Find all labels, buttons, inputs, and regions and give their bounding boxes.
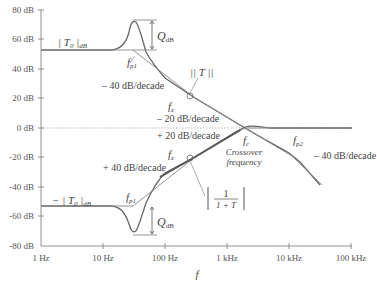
svg-text:100 Hz: 100 Hz bbox=[152, 253, 178, 263]
crossover-label-1: Crossover bbox=[226, 147, 263, 157]
slope-plus40: + 40 dB/decade bbox=[103, 162, 166, 173]
x-tick-labels: 1 Hz 10 Hz 100 Hz 1 kHz 10 kHz 100 kHz bbox=[32, 253, 366, 263]
svg-text:20 dB: 20 dB bbox=[12, 93, 34, 103]
svg-text:80 dB: 80 dB bbox=[12, 5, 34, 15]
svg-text:10 kHz: 10 kHz bbox=[276, 253, 302, 263]
fp1-bottom-label: fp1 bbox=[126, 191, 136, 205]
svg-text:1 Hz: 1 Hz bbox=[32, 253, 49, 263]
svg-text:10 Hz: 10 Hz bbox=[92, 253, 114, 263]
x-axis-label: f bbox=[195, 268, 200, 280]
fz-bottom-label: fz bbox=[168, 148, 174, 162]
svg-text:1: 1 bbox=[224, 188, 229, 199]
slope-minus20: – 20 dB/decade bbox=[156, 113, 220, 124]
fz-top-label: fz bbox=[168, 100, 174, 114]
slope-minus40-top: – 40 dB/decade bbox=[101, 80, 165, 91]
fp1-top-label: fp1 bbox=[127, 56, 137, 70]
bode-plot: 80 dB 60 dB 40 dB 20 dB 0 dB -20 dB -40 … bbox=[0, 0, 377, 288]
q-top-label: QdB bbox=[157, 29, 174, 44]
crossover-label-2: frequency bbox=[226, 157, 261, 167]
inverse-curve bbox=[41, 126, 352, 232]
slope-plus20: + 20 dB/decade bbox=[157, 130, 220, 141]
svg-text:-80 dB: -80 dB bbox=[9, 241, 34, 251]
svg-text:1 + T: 1 + T bbox=[216, 200, 237, 210]
svg-text:-60 dB: -60 dB bbox=[9, 211, 34, 221]
fc-label: fc bbox=[243, 134, 250, 148]
svg-text:100 kHz: 100 kHz bbox=[336, 253, 367, 263]
slope-minus40-right: – 40 dB/decade bbox=[313, 150, 377, 161]
y-tick-labels: 80 dB 60 dB 40 dB 20 dB 0 dB -20 dB -40 … bbox=[9, 5, 34, 251]
fp2-label: fp2 bbox=[293, 134, 304, 148]
inverse-label: 1 1 + T bbox=[208, 187, 244, 210]
q-arrow-bottom bbox=[150, 207, 154, 234]
svg-text:40 dB: 40 dB bbox=[12, 64, 34, 74]
svg-text:60 dB: 60 dB bbox=[12, 34, 34, 44]
t0-bottom-label: − | T0 |dB bbox=[52, 194, 92, 208]
q-bottom-label: QdB bbox=[157, 215, 174, 230]
svg-text:1 kHz: 1 kHz bbox=[216, 253, 238, 263]
svg-text:-20 dB: -20 dB bbox=[9, 152, 34, 162]
t-norm-label: || T || bbox=[190, 66, 214, 78]
svg-text:0 dB: 0 dB bbox=[17, 123, 34, 133]
q-arrow-top bbox=[150, 21, 154, 49]
svg-text:-40 dB: -40 dB bbox=[9, 182, 34, 192]
t0-top-label: | T0 |dB bbox=[58, 36, 88, 50]
